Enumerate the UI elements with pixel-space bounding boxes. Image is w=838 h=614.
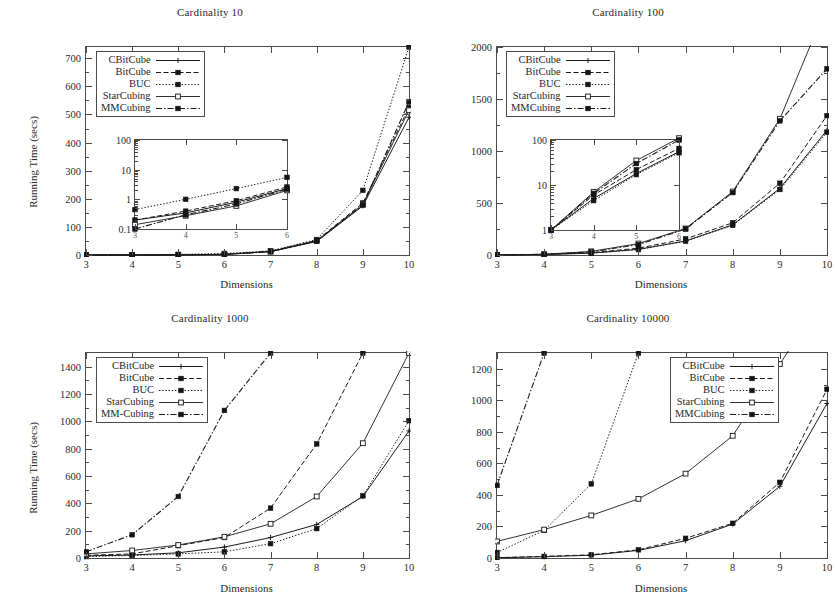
x-tick-mark [409,47,410,53]
inset-y-minor-tick [135,181,138,182]
y-tick-mark [497,495,503,496]
panel-title: Cardinality 10 [0,6,420,18]
y-tick-mark [86,114,92,115]
x-axis-label: Dimensions [85,582,408,594]
y-minor-tick [406,408,409,409]
x-tick-mark [224,47,225,53]
legend-item[interactable]: StarCubing [101,396,204,408]
x-tick-label: 6 [636,259,641,270]
inset-x-tick-label: 4 [184,231,188,240]
legend-item[interactable]: BitCube [101,66,201,78]
legend-item[interactable]: StarCubing [101,90,201,102]
inset-lines [135,140,287,229]
panel-title: Cardinality 10000 [418,312,838,324]
inset-y-minor-tick [135,147,138,148]
y-tick-mark [403,114,409,115]
legend-item[interactable]: BitCube [511,66,611,78]
legend-item[interactable]: BUC [511,78,611,90]
x-tick-label: 5 [589,259,594,270]
inset-y-minor-tick [551,147,554,148]
y-tick-label: 300 [65,165,81,176]
y-tick-mark [86,531,92,532]
y-tick-label: 400 [65,498,81,509]
y-tick-mark [403,227,409,228]
x-tick-mark [780,353,781,359]
y-tick-mark [86,503,92,504]
legend-item[interactable]: MM-Cubing [101,408,204,420]
y-tick-mark [821,369,827,370]
panel-title: Cardinality 1000 [0,312,420,324]
inset-y-minor-tick [135,161,138,162]
y-tick-label: 200 [476,521,492,532]
legend-item[interactable]: CBitCube [675,360,775,372]
y-minor-tick [497,448,500,449]
legend-item[interactable]: CBitCube [101,360,204,372]
legend[interactable]: CBitCubeBitCubeBUCStarCubingMMCubing [670,357,779,423]
x-tick-mark [224,249,225,255]
x-tick-mark [780,552,781,558]
legend-item[interactable]: BUC [675,384,775,396]
x-tick-mark [780,47,781,53]
y-tick-mark [403,58,409,59]
y-tick-mark [497,369,503,370]
inset-y-minor-tick [551,189,554,190]
legend-item[interactable]: BitCube [675,372,775,384]
y-tick-mark [403,394,409,395]
legend-item[interactable]: BUC [101,384,204,396]
inset-y-minor-tick [551,216,554,217]
y-minor-tick [497,416,500,417]
x-tick-label: 8 [730,259,735,270]
legend-item[interactable]: MMCubing [511,102,611,114]
y-minor-tick [824,385,827,386]
inset-y-minor-tick [135,206,138,207]
x-tick-mark [178,552,179,558]
legend-item[interactable]: StarCubing [511,90,611,102]
legend[interactable]: CBitCubeBitCubeBUCStarCubingMMCubing [506,51,615,117]
legend-item[interactable]: CBitCube [511,54,611,66]
y-minor-tick [824,229,827,230]
y-minor-tick [86,462,89,463]
legend-item-label: BUC [539,78,561,90]
inset-x-tick-label: 4 [592,232,596,241]
legend-item[interactable]: CBitCube [101,54,201,66]
legend-item[interactable]: BUC [101,78,201,90]
inset-y-minor-tick [135,173,138,174]
y-minor-tick [86,185,89,186]
x-tick-mark [86,47,87,53]
y-tick-mark [86,86,92,87]
y-tick-mark [403,531,409,532]
y-minor-tick [86,380,89,381]
inset-y-minor-tick [135,211,138,212]
legend-item-label: BitCube [119,372,154,384]
y-tick-mark [821,99,827,100]
y-minor-tick [824,448,827,449]
inset-x-tick-label: 6 [677,232,681,241]
legend[interactable]: CBitCubeBitCubeBUCStarCubingMMCubing [96,51,205,117]
y-tick-mark [821,151,827,152]
x-tick-mark [132,249,133,255]
inset-y-minor-tick [551,192,554,193]
inset-series-bitcube [549,146,682,232]
inset-y-tick-mark [135,170,140,171]
x-tick-label: 5 [589,562,594,573]
y-tick-mark [86,449,92,450]
legend-item-label: StarCubing [106,396,154,408]
legend-item[interactable]: MMCubing [101,102,201,114]
legend-item-label: BUC [129,78,151,90]
y-minor-tick [406,72,409,73]
x-tick-label: 3 [83,259,88,270]
legend[interactable]: CBitCubeBitCubeBUCStarCubingMM-Cubing [96,357,208,423]
x-tick-mark [271,552,272,558]
legend-item[interactable]: StarCubing [675,396,775,408]
y-minor-tick [497,73,500,74]
legend-item[interactable]: MMCubing [675,408,775,420]
y-tick-mark [403,255,409,256]
legend-item[interactable]: BitCube [101,372,204,384]
x-tick-mark [827,353,828,359]
inset-y-minor-tick [551,154,554,155]
y-tick-label: 600 [65,81,81,92]
x-tick-label: 7 [268,259,273,270]
inset-x-tick-mark [186,224,187,229]
inset-y-minor-tick [135,179,138,180]
y-minor-tick [406,462,409,463]
